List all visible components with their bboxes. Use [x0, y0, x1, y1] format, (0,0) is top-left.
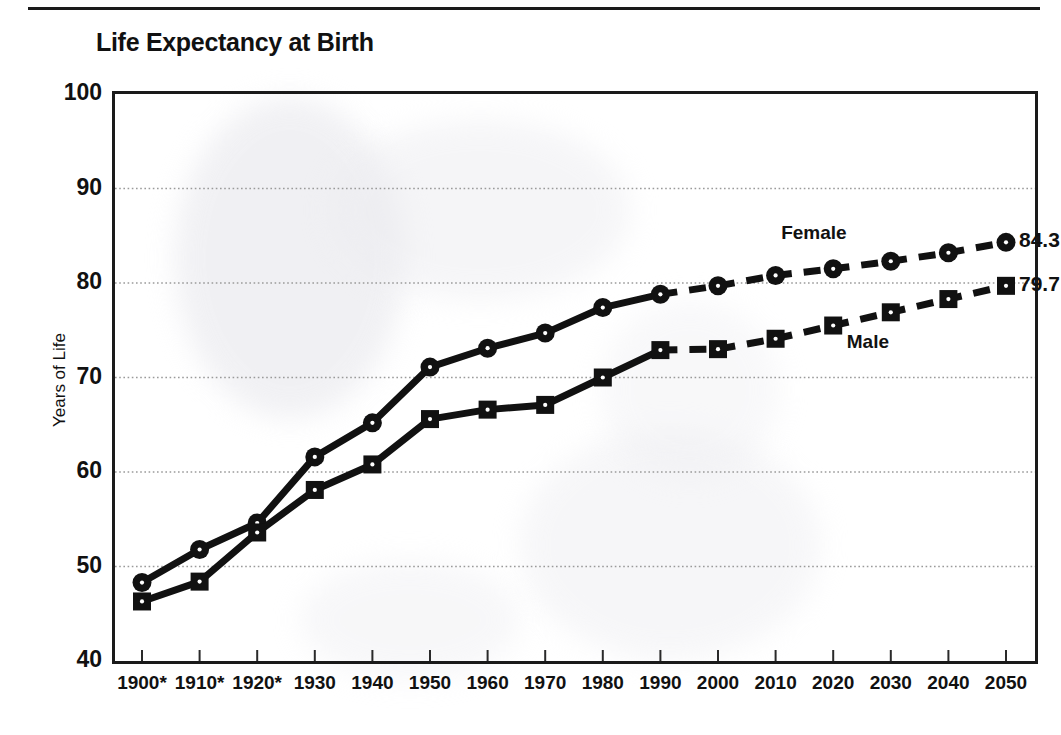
x-tick-label: 1920*: [232, 672, 282, 694]
end-label-female: 84.3: [1019, 228, 1060, 252]
chart-svg: [115, 94, 1035, 661]
marker-center-highlight: [774, 273, 778, 277]
marker-center-highlight: [716, 347, 720, 351]
marker-center-highlight: [140, 599, 144, 603]
page-top-rule: [28, 7, 1040, 10]
y-tick-label: 60: [40, 457, 102, 484]
series-line-historical: [142, 350, 660, 601]
y-tick-label: 50: [40, 552, 102, 579]
marker-center-highlight: [601, 305, 605, 309]
y-tick-label: 90: [40, 174, 102, 201]
marker-center-highlight: [198, 547, 202, 551]
y-tick-label: 70: [40, 363, 102, 390]
marker-center-highlight: [543, 331, 547, 335]
marker-center-highlight: [889, 259, 893, 263]
marker-center-highlight: [543, 403, 547, 407]
x-tick-label: 1980: [582, 672, 624, 694]
marker-center-highlight: [889, 310, 893, 314]
x-tick-label: 1960: [466, 672, 508, 694]
plot-area: [112, 91, 1038, 664]
marker-center-highlight: [1004, 240, 1008, 244]
y-tick-label: 40: [40, 646, 102, 673]
y-tick-label: 100: [40, 79, 102, 106]
x-tick-label: 1900*: [117, 672, 167, 694]
x-tick-label: 2010: [754, 672, 796, 694]
marker-center-highlight: [658, 348, 662, 352]
marker-center-highlight: [486, 408, 490, 412]
marker-center-highlight: [313, 455, 317, 459]
y-axis-tick-labels: 100908070605040: [30, 0, 102, 735]
x-tick-label: 1940: [351, 672, 393, 694]
chart-page: Life Expectancy at Birth Years of Life 1…: [0, 0, 1061, 735]
plot-inner: [115, 94, 1035, 661]
x-tick-label: 1970: [524, 672, 566, 694]
marker-center-highlight: [831, 267, 835, 271]
marker-center-highlight: [946, 297, 950, 301]
end-label-male: 79.7: [1019, 272, 1060, 296]
marker-center-highlight: [370, 462, 374, 466]
marker-center-highlight: [486, 346, 490, 350]
marker-center-highlight: [601, 375, 605, 379]
marker-center-highlight: [370, 421, 374, 425]
marker-center-highlight: [140, 580, 144, 584]
marker-center-highlight: [831, 323, 835, 327]
marker-center-highlight: [774, 337, 778, 341]
x-tick-label: 1910*: [175, 672, 225, 694]
x-tick-label: 1930: [294, 672, 336, 694]
x-axis-tick-labels: 1900*1910*1920*1930194019501960197019801…: [0, 672, 1061, 712]
x-tick-label: 2050: [985, 672, 1027, 694]
x-tick-label: 2030: [870, 672, 912, 694]
marker-center-highlight: [658, 292, 662, 296]
marker-center-highlight: [716, 284, 720, 288]
x-tick-label: 1990: [639, 672, 681, 694]
marker-center-highlight: [198, 580, 202, 584]
marker-center-highlight: [1004, 284, 1008, 288]
marker-center-highlight: [313, 488, 317, 492]
series-label-female: Female: [781, 222, 846, 244]
series-label-male: Male: [847, 331, 889, 353]
x-tick-label: 1950: [409, 672, 451, 694]
x-tick-label: 2040: [927, 672, 969, 694]
x-tick-label: 2020: [812, 672, 854, 694]
marker-center-highlight: [428, 365, 432, 369]
marker-center-highlight: [428, 417, 432, 421]
y-tick-label: 80: [40, 268, 102, 295]
chart-title: Life Expectancy at Birth: [96, 28, 374, 57]
marker-center-highlight: [946, 251, 950, 255]
x-tick-label: 2000: [697, 672, 739, 694]
marker-center-highlight: [255, 530, 259, 534]
